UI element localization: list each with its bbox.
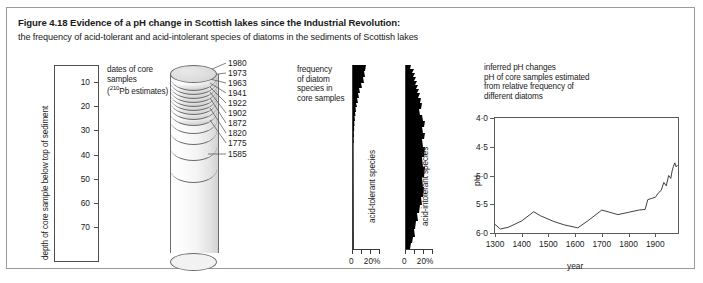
depth-tick [94, 155, 99, 156]
core-date: 1973 [228, 68, 247, 78]
depth-tick-label: 40 [81, 150, 90, 160]
core-date: 1902 [228, 108, 247, 118]
depth-tick [94, 82, 99, 83]
intolerant-scale-max: 20% [417, 257, 433, 266]
core-date: 1872 [228, 118, 247, 128]
ph-tick-label: 6·0 [476, 228, 488, 238]
ph-tick-label: 4·5 [476, 142, 488, 152]
tolerant-scale [352, 249, 380, 256]
depth-tick-label: 50 [81, 174, 90, 184]
figure-subtitle: the frequency of acid-tolerant and acid-… [18, 31, 678, 43]
year-tick-label: 1300 [486, 239, 505, 249]
figure-title-block: Figure 4.18 Evidence of a pH change in S… [18, 17, 678, 43]
acid-tolerant-axis-label: acid-tolerant species [368, 150, 377, 223]
ph-panel-caption: inferred pH changes pH of core samples e… [484, 63, 590, 101]
depth-axis-panel: 10203040506070 [54, 65, 99, 262]
depth-tick [94, 203, 99, 204]
acid-intolerant-axis-label: acid-intolerant species [421, 147, 430, 226]
core-dates-caption-tail: Pb estimates) [119, 87, 168, 96]
intolerant-scale-min: 0 [402, 257, 407, 266]
core-cylinder-top [170, 65, 217, 83]
figure-frame: Figure 4.18 Evidence of a pH change in S… [6, 7, 695, 269]
ph-tick-label: 4·0 [476, 113, 488, 123]
ph-tick-label: 5·0 [476, 171, 488, 181]
frequency-caption: frequency of diatom species in core samp… [297, 65, 345, 103]
year-tick [548, 233, 549, 237]
year-tick-label: 1600 [566, 239, 585, 249]
figure-title: Figure 4.18 Evidence of a pH change in S… [18, 17, 678, 29]
depth-tick-label: 30 [81, 125, 90, 135]
intolerant-scale-labels: 0 20% [402, 257, 433, 266]
intolerant-scale [405, 249, 433, 256]
core-date: 1980 [228, 58, 247, 68]
depth-axis-label: depth of core sample below top of sedime… [41, 106, 50, 260]
depth-tick [94, 179, 99, 180]
core-dates-caption: dates of core samples (210Pb estimates) [107, 65, 168, 97]
ph-tick [490, 118, 495, 119]
ph-line-series [495, 118, 678, 233]
year-tick-label: 1400 [512, 239, 531, 249]
tolerant-scale-max: 20% [364, 257, 380, 266]
ph-tick-label: 5·5 [476, 199, 488, 209]
tolerant-scale-min: 0 [349, 257, 354, 266]
lead-210-superscript: 210 [110, 85, 120, 91]
year-tick [629, 233, 630, 237]
depth-tick-label: 20 [81, 101, 90, 111]
depth-tick [94, 106, 99, 107]
year-tick-label: 1500 [539, 239, 558, 249]
year-axis-label: year [567, 261, 583, 271]
core-date: 1922 [228, 98, 247, 108]
core-date: 1820 [228, 128, 247, 138]
year-tick [602, 233, 603, 237]
core-date: 1585 [228, 149, 247, 159]
core-cylinder-base [170, 253, 217, 271]
ph-line-chart: 4·04·55·05·56·01300140015001600170018001… [494, 117, 679, 234]
core-date: 1775 [228, 138, 247, 148]
year-tick [495, 233, 496, 237]
ph-tick [490, 147, 495, 148]
year-tick [655, 233, 656, 237]
core-date: 1941 [228, 88, 247, 98]
ph-tick [490, 204, 495, 205]
year-tick-label: 1700 [593, 239, 612, 249]
tolerant-scale-labels: 0 20% [349, 257, 380, 266]
depth-tick-label: 10 [81, 77, 90, 87]
depth-tick-label: 60 [81, 198, 90, 208]
year-tick [575, 233, 576, 237]
depth-tick [94, 130, 99, 131]
ph-tick [490, 176, 495, 177]
year-tick [522, 233, 523, 237]
depth-tick-label: 70 [81, 222, 90, 232]
year-tick-label: 1900 [646, 239, 665, 249]
year-tick-label: 1800 [619, 239, 638, 249]
core-date: 1963 [228, 78, 247, 88]
depth-tick [94, 227, 99, 228]
